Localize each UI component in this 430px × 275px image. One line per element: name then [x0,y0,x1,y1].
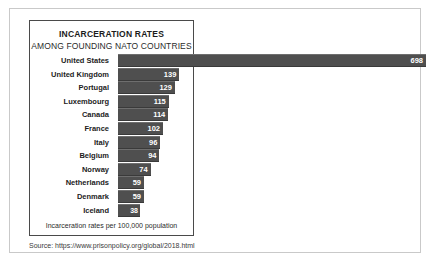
bar-category-label: France [29,122,109,135]
bar: 114 [118,108,168,121]
chart-title: INCARCERATION RATES [30,29,193,39]
bar: 59 [118,176,144,189]
bar-row: Canada114 [29,108,429,121]
bar-value-label: 94 [148,150,156,161]
bar: 139 [118,68,179,81]
figure-frame: INCARCERATION RATES AMONG FOUNDING NATO … [9,8,421,253]
bar-row: Denmark59 [29,190,429,203]
bar: 129 [118,81,175,94]
bar-row: Luxembourg115 [29,95,429,108]
bar: 96 [118,136,160,149]
bar-category-label: Netherlands [29,176,109,189]
bar-row: Netherlands59 [29,176,429,189]
bar-row: Iceland38 [29,204,429,217]
chart-subtitle: AMONG FOUNDING NATO COUNTRIES [30,41,193,51]
bar-row: Portugal129 [29,81,429,94]
bar: 59 [118,190,144,203]
bar-category-label: Luxembourg [29,95,109,108]
bar-chart-plot-area: United States698United Kingdom139Portuga… [29,54,429,224]
bar: 115 [118,95,169,108]
bar-value-label: 139 [164,69,177,80]
bar: 698 [118,54,426,67]
bar-value-label: 102 [147,123,160,134]
bar-category-label: Denmark [29,190,109,203]
bar-row: United States698 [29,54,429,67]
bar-value-label: 96 [149,137,157,148]
bar-category-label: Norway [29,163,109,176]
bar-value-label: 38 [130,205,138,216]
bar-category-label: Iceland [29,204,109,217]
bar-value-label: 74 [139,164,147,175]
bar: 102 [118,122,163,135]
bar-value-label: 129 [159,82,172,93]
bar-value-label: 115 [154,96,166,107]
bar: 38 [118,204,140,217]
bar-row: France102 [29,122,429,135]
bar-value-label: 114 [153,109,165,120]
bar-category-label: Italy [29,136,109,149]
bar: 94 [118,149,159,162]
bar-category-label: Belgium [29,149,109,162]
bar-value-label: 59 [133,177,141,188]
bar-value-label: 698 [410,55,423,66]
bar-row: Italy96 [29,136,429,149]
bar-category-label: United Kingdom [29,68,109,81]
source-caption: Source: https://www.prisonpolicy.org/glo… [29,242,195,249]
bar-category-label: Portugal [29,81,109,94]
bar-row: Belgium94 [29,149,429,162]
bar-value-label: 59 [133,191,141,202]
bar: 74 [118,163,151,176]
bar-category-label: United States [29,54,109,67]
bar-row: Norway74 [29,163,429,176]
bar-row: United Kingdom139 [29,68,429,81]
bar-category-label: Canada [29,108,109,121]
